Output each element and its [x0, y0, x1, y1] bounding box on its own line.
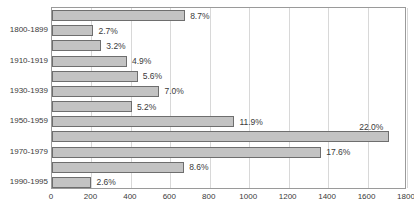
bar — [52, 10, 185, 21]
x-tick-label: 1000 — [239, 192, 257, 201]
bar-row: 5.6% — [52, 71, 407, 82]
gridline — [407, 8, 408, 188]
x-tick-label: 600 — [163, 192, 176, 201]
bar — [52, 131, 389, 142]
category-label: 1930-1939 — [10, 85, 48, 96]
category-label: 1910-1919 — [10, 55, 48, 66]
bar — [52, 86, 159, 97]
bar-row: 17.6% — [52, 147, 407, 158]
bar-row: 2.7% — [52, 25, 407, 36]
bar — [52, 56, 127, 67]
bar — [52, 71, 138, 82]
x-tick-label: 1400 — [318, 192, 336, 201]
bar-value-label: 5.2% — [137, 102, 156, 112]
bar-value-label: 5.6% — [143, 71, 162, 81]
x-tick-label: 0 — [49, 192, 53, 201]
bar-value-label: 4.9% — [132, 56, 151, 66]
category-label: 1970-1979 — [10, 146, 48, 157]
bar-value-label: 7.0% — [164, 86, 183, 96]
bar — [52, 25, 93, 36]
bar — [52, 147, 321, 158]
bar-value-label: 8.7% — [190, 11, 209, 21]
bar-value-label: 22.0% — [359, 122, 383, 132]
bar-row: 8.7% — [52, 10, 407, 21]
bar — [52, 162, 184, 173]
bar-row: 7.0% — [52, 86, 407, 97]
bar-value-label: 2.6% — [96, 177, 115, 187]
bar — [52, 40, 101, 51]
bar — [52, 116, 234, 127]
bar-value-label: 11.9% — [239, 117, 262, 127]
plot-area: 8.7%2.7%3.2%4.9%5.6%7.0%5.2%11.9%22.0%17… — [51, 7, 406, 189]
category-label: 1950-1959 — [10, 115, 48, 126]
x-tick-label: 800 — [202, 192, 215, 201]
x-tick-label: 200 — [84, 192, 97, 201]
bar-row: 8.6% — [52, 162, 407, 173]
bar-row: 11.9% — [52, 116, 407, 127]
bar-row: 4.9% — [52, 56, 407, 67]
bar-value-label: 2.7% — [98, 26, 117, 36]
category-label: 1800-1899 — [10, 24, 48, 35]
bar-row: 3.2% — [52, 40, 407, 51]
bar-value-label: 8.6% — [189, 162, 208, 172]
bar-value-label: 17.6% — [326, 147, 350, 157]
category-label: 1990-1995 — [10, 176, 48, 187]
x-tick-label: 1200 — [279, 192, 297, 201]
x-tick-label: 400 — [123, 192, 136, 201]
category-axis: 1800-18991910-19191930-19391950-19591970… — [0, 7, 48, 189]
x-tick-label: 1800 — [397, 192, 414, 201]
bar — [52, 101, 132, 112]
x-axis: 020040060080010001200140016001800 — [51, 190, 406, 208]
bar-row: 22.0% — [52, 131, 407, 142]
bar-chart: 1800-18991910-19191930-19391950-19591970… — [0, 0, 414, 216]
bar-value-label: 3.2% — [106, 41, 125, 51]
bar-row: 5.2% — [52, 101, 407, 112]
bar — [52, 177, 91, 188]
bar-row: 2.6% — [52, 177, 407, 188]
x-tick-label: 1600 — [358, 192, 376, 201]
